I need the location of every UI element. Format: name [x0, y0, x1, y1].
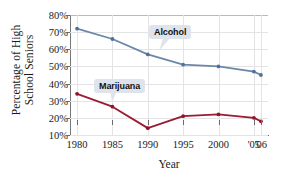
y-tick-label: 50% [44, 61, 68, 72]
data-point-alcohol [111, 37, 115, 41]
data-point-marijuana [75, 92, 79, 96]
x-tick-label: 1985 [102, 139, 123, 150]
x-tick-label: '06 [255, 139, 267, 150]
y-tick-label: 80% [44, 10, 68, 21]
y-tick-label: 70% [44, 27, 68, 38]
annotation-marijuana: Marijuana [94, 79, 145, 93]
chart-figure: Percentage of High School Seniors 80%70%… [0, 0, 282, 177]
data-point-alcohol [259, 73, 263, 77]
data-point-marijuana [146, 126, 150, 130]
data-point-marijuana [181, 114, 185, 118]
data-point-alcohol [217, 65, 221, 69]
x-tick-label: 1980 [67, 139, 88, 150]
data-point-marijuana [217, 113, 221, 117]
x-tick-mark [77, 120, 78, 125]
y-tick-label: 40% [44, 78, 68, 89]
x-tick-mark [148, 120, 149, 125]
y-tick-label: 20% [44, 112, 68, 123]
data-point-alcohol [146, 53, 150, 57]
x-tick-mark [254, 120, 255, 125]
y-axis-title-line1: Percentage of High [10, 25, 22, 116]
x-tick-mark [183, 120, 184, 125]
data-point-alcohol [252, 70, 256, 74]
y-tick-label: 30% [44, 95, 68, 106]
x-tick-mark [219, 120, 220, 125]
data-point-alcohol [75, 27, 79, 31]
data-point-alcohol [181, 63, 185, 67]
y-tick-label: 60% [44, 44, 68, 55]
y-axis-title-line2: School Seniors [23, 25, 36, 116]
x-tick-mark [112, 120, 113, 125]
x-tick-mark [261, 120, 262, 125]
x-tick-label: 2000 [208, 139, 229, 150]
annotation-alcohol: Alcohol [149, 25, 191, 39]
horizontal-gridline [70, 135, 268, 136]
x-tick-label: 1995 [173, 139, 194, 150]
y-axis-title: Percentage of High School Seniors [0, 0, 46, 140]
x-axis-title: Year [70, 158, 268, 170]
y-tick-label: 10% [44, 130, 68, 141]
y-tick-mark [66, 135, 70, 136]
x-tick-label: 1990 [137, 139, 158, 150]
data-point-marijuana [111, 105, 115, 109]
series-line-marijuana [77, 94, 261, 128]
